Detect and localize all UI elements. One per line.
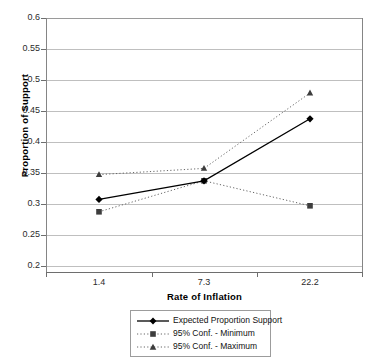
line-chart: 0.6 0.55 0.5 0.45 0.4 0.35 0.3 0.25 0.2 … xyxy=(0,0,371,363)
square-marker-icon xyxy=(135,328,171,340)
legend-label-0: Expected Proportion Support xyxy=(171,314,282,327)
legend-label-1: 95% Conf. - Minimum xyxy=(171,327,255,340)
legend-item-expected-proportion-support: Expected Proportion Support xyxy=(135,314,266,327)
legend-label-2: 95% Conf. - Maximum xyxy=(171,340,257,353)
legend: Expected Proportion Support 95% Conf. - … xyxy=(130,310,271,357)
triangle-marker-icon xyxy=(135,341,171,353)
series-95-conf-maximum xyxy=(96,90,313,177)
legend-item-95-conf-maximum: 95% Conf. - Maximum xyxy=(135,340,266,353)
legend-item-95-conf-minimum: 95% Conf. - Minimum xyxy=(135,327,266,340)
series-expected-proportion-support xyxy=(95,115,313,203)
series-layer xyxy=(0,0,371,363)
diamond-marker-icon xyxy=(135,315,171,327)
